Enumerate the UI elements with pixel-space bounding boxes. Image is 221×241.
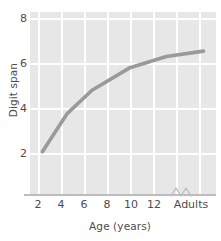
y-axis-tick-label: 2: [3, 148, 27, 159]
x-axis-tick-label: Adults: [169, 199, 213, 210]
x-axis-title: Age (years): [40, 220, 200, 232]
x-axis-tick-label: 12: [144, 199, 164, 210]
chart-figure: Digit span 8 6 4 2 2 4 6 8 10 12 Adults …: [0, 0, 221, 241]
plot-area: [30, 12, 216, 194]
y-axis-tick-label: 4: [3, 103, 27, 114]
y-axis-tick-label: 6: [3, 58, 27, 69]
x-axis-tick-label: 2: [30, 199, 46, 210]
x-axis-tick-label: 6: [76, 199, 92, 210]
data-series-line: [30, 12, 216, 194]
x-axis-tick-label: 4: [53, 199, 69, 210]
y-axis-tick-label: 8: [3, 13, 27, 24]
axis-break-icon: [170, 186, 192, 198]
x-axis-tick-label: 10: [121, 199, 141, 210]
x-axis-tick-label: 8: [99, 199, 115, 210]
